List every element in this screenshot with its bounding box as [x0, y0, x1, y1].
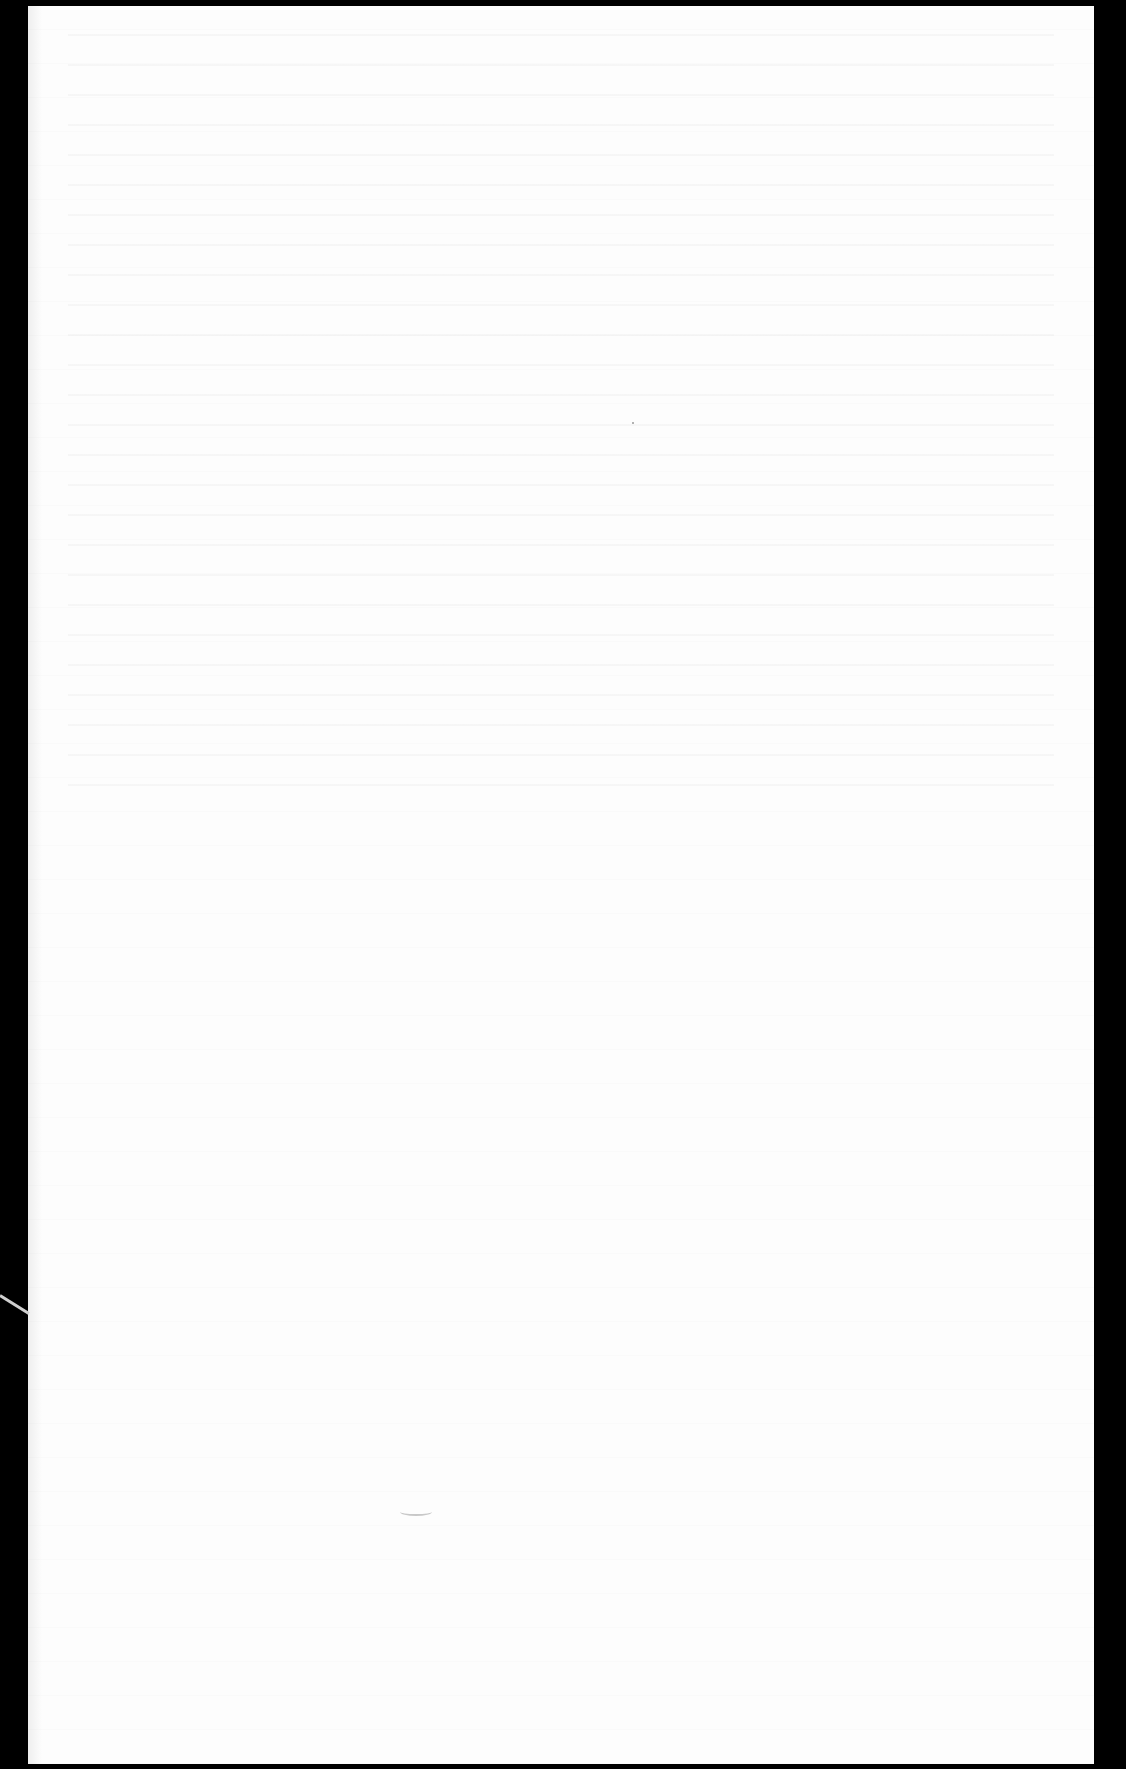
smudge-mark [400, 1508, 432, 1516]
speck-mark [632, 422, 634, 424]
scanner-edge-mark [0, 1294, 30, 1315]
page-edge-shadow [28, 6, 42, 1764]
blank-scanned-page [28, 6, 1094, 1764]
reverse-side-bleed-through [68, 26, 1054, 786]
